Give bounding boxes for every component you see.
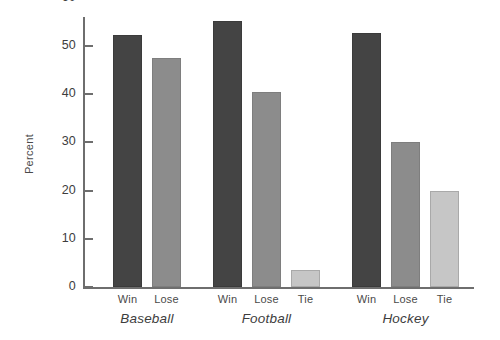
x-axis-line (83, 287, 474, 289)
y-tick-label: 10 (42, 231, 76, 245)
y-tick-label-text: 40 (42, 86, 76, 100)
y-tick-label: 50 (42, 38, 76, 52)
y-tick-label: 20 (42, 183, 76, 197)
y-tick-mark (84, 93, 93, 95)
bar-baseball-win (113, 35, 142, 287)
y-tick-label-text: 30 (42, 134, 76, 148)
y-tick-label-text: 50 (42, 38, 76, 52)
y-tick-mark (84, 286, 93, 288)
y-tick-label-text: 10 (42, 231, 76, 245)
bar-chart: Percent 0102030405060 WinLoseBaseballWin… (0, 0, 500, 340)
y-tick-label-text: 20 (42, 183, 76, 197)
y-tick-label: 30 (42, 134, 76, 148)
group-label-baseball: Baseball (87, 311, 207, 326)
y-tick-mark (84, 190, 93, 192)
bar-football-win (213, 21, 242, 287)
series-label-lose: Lose (142, 293, 192, 305)
y-tick-label: 0 (42, 279, 76, 293)
group-label-football: Football (207, 311, 327, 326)
y-axis-title: Percent (23, 119, 35, 189)
series-label-tie: Tie (281, 293, 331, 305)
bar-hockey-win (352, 33, 381, 287)
y-tick-label: 40 (42, 86, 76, 100)
y-tick-mark (84, 238, 93, 240)
y-tick-mark (84, 141, 93, 143)
bar-football-tie (291, 270, 320, 287)
bar-hockey-lose (391, 142, 420, 287)
y-tick-mark (84, 45, 93, 47)
y-tick-label: 60 (42, 0, 76, 4)
series-label-tie: Tie (420, 293, 470, 305)
y-tick-label-text: 0 (42, 279, 76, 293)
bar-hockey-tie (430, 191, 459, 287)
bar-football-lose (252, 92, 281, 287)
y-tick-label-text: 60 (42, 0, 76, 4)
bar-baseball-lose (152, 58, 181, 287)
y-axis-line (83, 17, 85, 288)
group-label-hockey: Hockey (346, 311, 466, 326)
